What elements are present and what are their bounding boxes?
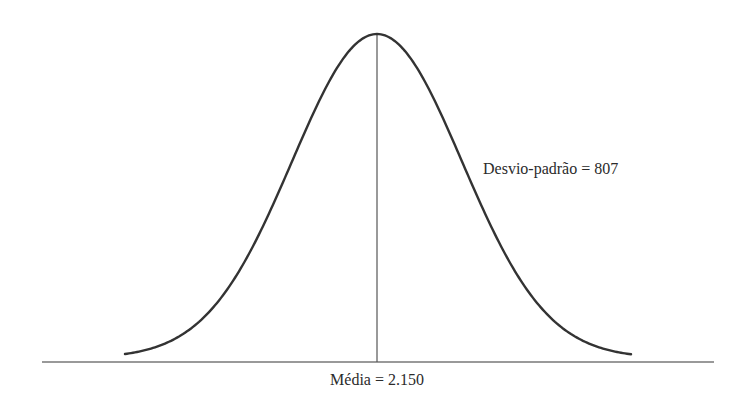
normal-distribution-chart	[0, 0, 747, 409]
normal-curve	[125, 34, 631, 354]
mean-label: Média = 2.150	[330, 371, 424, 389]
std-dev-label: Desvio-padrão = 807	[483, 160, 618, 178]
